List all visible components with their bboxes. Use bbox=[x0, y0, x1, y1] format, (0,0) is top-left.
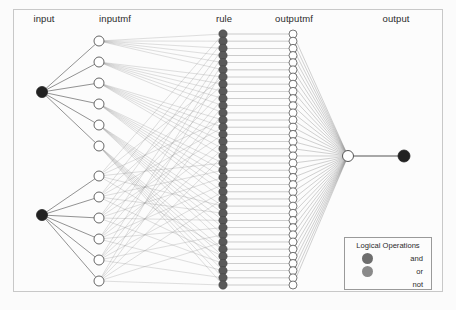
edge bbox=[293, 156, 348, 199]
legend-swatch-and bbox=[362, 253, 373, 264]
inputmf-node bbox=[94, 276, 104, 286]
edge bbox=[99, 62, 223, 106]
legend-row-or: or bbox=[345, 265, 431, 278]
edge bbox=[293, 63, 348, 156]
edge bbox=[42, 92, 99, 146]
edge bbox=[99, 197, 223, 213]
inputmf-node bbox=[94, 141, 104, 151]
aggregate-node bbox=[343, 151, 354, 162]
edge bbox=[99, 104, 223, 199]
output-node-group bbox=[398, 150, 410, 162]
inputmf-node bbox=[94, 192, 104, 202]
outputmf-node bbox=[289, 281, 297, 289]
edge bbox=[99, 41, 223, 48]
edge bbox=[99, 41, 223, 56]
edge bbox=[99, 146, 223, 271]
edge bbox=[293, 56, 348, 156]
edge bbox=[293, 41, 348, 156]
outputmf-node-group bbox=[289, 30, 297, 289]
edges-inputmf-to-rule bbox=[99, 34, 223, 285]
inputmf-node bbox=[94, 120, 104, 130]
inputmf-node bbox=[94, 255, 104, 265]
input-node-group bbox=[37, 87, 48, 221]
edge bbox=[293, 48, 348, 156]
inputmf-node bbox=[94, 99, 104, 109]
inputmf-node bbox=[94, 171, 104, 181]
input-node bbox=[37, 87, 48, 98]
edges-input-to-inputmf bbox=[42, 41, 99, 281]
edge bbox=[99, 176, 223, 249]
legend-label-and: and bbox=[410, 254, 423, 263]
edge bbox=[293, 91, 348, 156]
rule-node-group bbox=[219, 30, 227, 289]
edge bbox=[42, 176, 99, 215]
edge bbox=[293, 156, 348, 263]
edge bbox=[293, 156, 348, 271]
edge bbox=[99, 106, 223, 260]
edge bbox=[99, 34, 223, 41]
legend-swatch-or bbox=[362, 266, 373, 277]
inputmf-node bbox=[94, 234, 104, 244]
inputmf-node bbox=[94, 36, 104, 46]
edge bbox=[42, 197, 99, 215]
edge bbox=[99, 146, 223, 263]
edges-rule-to-outputmf bbox=[223, 34, 293, 285]
legend-label-or: or bbox=[416, 267, 423, 276]
edge bbox=[293, 156, 348, 163]
edge bbox=[42, 215, 99, 260]
edge bbox=[99, 281, 223, 285]
inputmf-node-group bbox=[94, 36, 104, 286]
legend-label-not: not bbox=[412, 280, 423, 289]
rule-node bbox=[219, 281, 227, 289]
inputmf-node bbox=[94, 213, 104, 223]
edge bbox=[99, 218, 223, 263]
column-label-rule: rule bbox=[216, 13, 232, 24]
edge bbox=[293, 156, 348, 285]
edge bbox=[293, 99, 348, 156]
inputmf-node bbox=[94, 57, 104, 67]
legend-box: Logical Operations and or not bbox=[344, 237, 432, 290]
legend-title: Logical Operations bbox=[356, 241, 419, 250]
edges-outputmf-to-aggregate bbox=[293, 34, 348, 285]
edge bbox=[293, 113, 348, 156]
inputmf-node bbox=[94, 78, 104, 88]
output-node bbox=[398, 150, 410, 162]
column-label-output: output bbox=[382, 13, 409, 24]
edge bbox=[42, 215, 99, 218]
edge bbox=[42, 215, 99, 239]
anfis-structure-figure: input inputmf rule outputmf output Logic… bbox=[0, 0, 456, 310]
edge bbox=[42, 215, 99, 281]
column-label-outputmf: outputmf bbox=[275, 13, 313, 24]
edge bbox=[42, 92, 99, 125]
edge bbox=[99, 228, 223, 239]
edge bbox=[293, 77, 348, 156]
legend-row-and: and bbox=[345, 252, 431, 265]
edge bbox=[293, 156, 348, 235]
edge bbox=[99, 239, 223, 271]
column-label-input: input bbox=[33, 13, 54, 24]
edge bbox=[293, 156, 348, 242]
edge bbox=[293, 156, 348, 220]
edge bbox=[99, 176, 223, 206]
edge bbox=[99, 146, 223, 285]
column-label-inputmf: inputmf bbox=[99, 13, 131, 24]
input-node bbox=[37, 210, 48, 221]
edge bbox=[99, 41, 223, 63]
edge bbox=[293, 156, 348, 249]
edge bbox=[42, 92, 99, 104]
edge bbox=[293, 156, 348, 213]
edge bbox=[99, 62, 223, 91]
legend-row-not: not bbox=[345, 278, 431, 291]
edge bbox=[99, 41, 223, 197]
edge bbox=[99, 127, 223, 197]
edge bbox=[99, 120, 223, 176]
edge bbox=[293, 156, 348, 256]
aggregate-node-group bbox=[343, 151, 354, 162]
